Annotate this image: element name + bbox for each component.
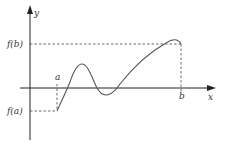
a-label: a <box>55 72 60 82</box>
b-label: b <box>179 91 185 101</box>
y-axis-label: y <box>33 8 40 18</box>
function-diagram: y x f(b) f(a) a b <box>0 0 227 146</box>
f-b-label: f(b) <box>6 39 24 49</box>
x-axis-arrow-icon <box>207 85 216 91</box>
x-axis-label: x <box>208 92 213 102</box>
y-axis-arrow-icon <box>27 5 33 14</box>
f-a-label: f(a) <box>6 106 23 116</box>
function-curve <box>57 40 181 111</box>
